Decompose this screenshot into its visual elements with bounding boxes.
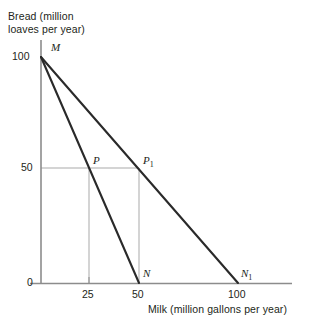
point-label-p1: P1: [143, 154, 154, 169]
series-line-mn: [41, 57, 139, 283]
y-tick-label-100: 100: [12, 50, 30, 62]
point-label-n: N: [143, 267, 150, 279]
point-label-p1-subscript: 1: [150, 160, 154, 169]
point-label-n1-subscript: 1: [248, 273, 252, 282]
point-label-n1: N1: [241, 267, 252, 282]
point-label-m: M: [51, 41, 60, 53]
chart-plot-area: [0, 0, 310, 324]
y-axis-title: Bread (million loaves per year): [8, 10, 85, 36]
x-tick-label-25: 25: [82, 288, 94, 300]
y-tick-label-0: 0: [27, 276, 33, 288]
x-tick-label-50: 50: [132, 288, 144, 300]
chart-container: Bread (million loaves per year) Milk (mi…: [0, 0, 310, 324]
point-label-p: P: [93, 154, 100, 166]
point-label-p1-text: P: [143, 154, 150, 166]
y-tick-label-50: 50: [21, 161, 33, 173]
x-axis-title: Milk (million gallons per year): [148, 303, 287, 315]
x-tick-label-100: 100: [228, 288, 246, 300]
